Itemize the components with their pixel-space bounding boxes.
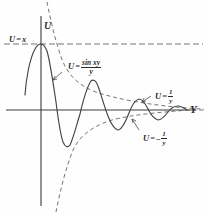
label-upper-envelope-denominator: y bbox=[168, 97, 174, 105]
label-main-curve-relation: = bbox=[74, 61, 81, 71]
label-lower-envelope-numerator: 1 bbox=[161, 131, 167, 140]
axis-label-y: Y bbox=[190, 104, 197, 115]
plot-svg bbox=[0, 0, 207, 214]
label-asymptote-relation: = bbox=[15, 34, 22, 44]
label-lower-envelope-equation: U=−1y bbox=[143, 131, 167, 147]
envelope-lower-curve bbox=[56, 110, 204, 212]
label-lower-envelope-denominator: y bbox=[161, 139, 167, 147]
label-main-curve-fraction: sin xyy bbox=[81, 59, 101, 76]
label-asymptote-rhs: x bbox=[22, 34, 26, 44]
label-main-curve-equation: U=sin xyy bbox=[68, 59, 101, 76]
label-upper-envelope-fraction: 1y bbox=[168, 89, 174, 105]
leader-line-main-curve bbox=[53, 72, 62, 80]
label-main-curve-denominator: y bbox=[81, 68, 101, 76]
label-upper-envelope-equation: U=1y bbox=[155, 89, 173, 105]
figure-container: U Y U=x U=sin xyy U=1y U=−1y bbox=[0, 0, 207, 214]
label-upper-envelope-numerator: 1 bbox=[168, 89, 174, 98]
label-asymptote-u-equals-x: U=x bbox=[9, 35, 26, 44]
label-lower-envelope-fraction: 1y bbox=[161, 131, 167, 147]
label-lower-envelope-relation: = bbox=[149, 133, 156, 143]
envelope-upper-curve bbox=[47, 2, 204, 109]
axis-label-u: U bbox=[44, 21, 51, 31]
label-upper-envelope-relation: = bbox=[161, 91, 168, 101]
